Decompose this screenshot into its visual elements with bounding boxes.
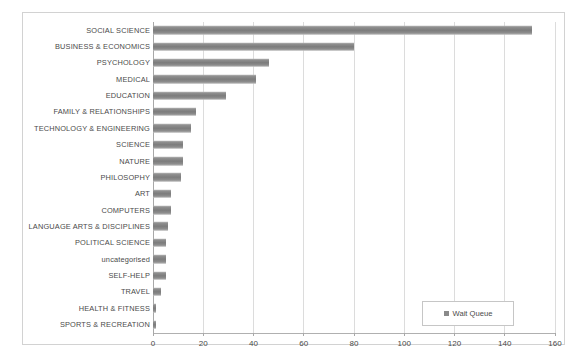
- x-tick-label: 140: [498, 339, 511, 348]
- bar-row: PHILOSOPHY: [23, 169, 564, 185]
- bar-row: POLITICAL SCIENCE: [23, 235, 564, 251]
- bar-track: [153, 87, 555, 103]
- category-label: POLITICAL SCIENCE: [23, 238, 150, 247]
- bar-track: [153, 153, 555, 169]
- bar-row: uncategorised: [23, 251, 564, 267]
- x-tick-label: 60: [299, 339, 308, 348]
- bar[interactable]: [153, 91, 226, 100]
- category-label: PSYCHOLOGY: [23, 58, 150, 67]
- category-label: COMPUTERS: [23, 206, 150, 215]
- bar[interactable]: [153, 26, 532, 35]
- bar-row: NATURE: [23, 153, 564, 169]
- x-tick-label: 120: [448, 339, 461, 348]
- category-label: LANGUAGE ARTS & DISCIPLINES: [23, 222, 150, 231]
- x-tick-label: 100: [398, 339, 411, 348]
- x-tick-label: 160: [548, 339, 561, 348]
- bar-row: SCIENCE: [23, 137, 564, 153]
- bar-row: MEDICAL: [23, 71, 564, 87]
- legend-swatch-icon: [444, 311, 449, 316]
- bar-track: [153, 169, 555, 185]
- bar-row: SOCIAL SCIENCE: [23, 22, 564, 38]
- category-label: SPORTS & RECREATION: [23, 320, 150, 329]
- bar-track: [153, 251, 555, 267]
- bar-track: [153, 284, 555, 300]
- bar[interactable]: [153, 75, 256, 84]
- bar[interactable]: [153, 222, 168, 231]
- bar[interactable]: [153, 239, 166, 248]
- x-axis-line: [153, 333, 555, 334]
- bar[interactable]: [153, 108, 196, 117]
- category-label: ART: [23, 189, 150, 198]
- x-tick-label: 80: [350, 339, 359, 348]
- bar-track: [153, 202, 555, 218]
- bar[interactable]: [153, 140, 183, 149]
- bar-track: [153, 104, 555, 120]
- category-label: SCIENCE: [23, 140, 150, 149]
- bar-track: [153, 22, 555, 38]
- x-tick-label: 40: [249, 339, 258, 348]
- category-label: SOCIAL SCIENCE: [23, 26, 150, 35]
- bar-row: EDUCATION: [23, 87, 564, 103]
- chart-frame: SOCIAL SCIENCEBUSINESS & ECONOMICSPSYCHO…: [22, 12, 565, 345]
- bar-row: FAMILY & RELATIONSHIPS: [23, 104, 564, 120]
- bar-track: [153, 137, 555, 153]
- bar-row: TRAVEL: [23, 284, 564, 300]
- bar[interactable]: [153, 59, 269, 68]
- category-label: BUSINESS & ECONOMICS: [23, 42, 150, 51]
- bar-track: [153, 55, 555, 71]
- bar-row: BUSINESS & ECONOMICS: [23, 38, 564, 54]
- plot-area: SOCIAL SCIENCEBUSINESS & ECONOMICSPSYCHO…: [23, 22, 564, 333]
- category-label: MEDICAL: [23, 75, 150, 84]
- category-label: HEALTH & FITNESS: [23, 304, 150, 313]
- bar-track: [153, 71, 555, 87]
- bar-row: LANGUAGE ARTS & DISCIPLINES: [23, 218, 564, 234]
- bar[interactable]: [153, 304, 156, 313]
- category-label: TECHNOLOGY & ENGINEERING: [23, 124, 150, 133]
- bar[interactable]: [153, 255, 166, 264]
- bar[interactable]: [153, 173, 181, 182]
- bar[interactable]: [153, 157, 183, 166]
- category-label: FAMILY & RELATIONSHIPS: [23, 107, 150, 116]
- bar[interactable]: [153, 288, 161, 297]
- bar[interactable]: [153, 271, 166, 280]
- bar-row: TECHNOLOGY & ENGINEERING: [23, 120, 564, 136]
- bar-row: PSYCHOLOGY: [23, 55, 564, 71]
- bar[interactable]: [153, 206, 171, 215]
- bar-track: [153, 267, 555, 283]
- category-label: EDUCATION: [23, 91, 150, 100]
- bar-track: [153, 120, 555, 136]
- bar-row: ART: [23, 186, 564, 202]
- category-label: SELF-HELP: [23, 271, 150, 280]
- category-label: TRAVEL: [23, 287, 150, 296]
- bar[interactable]: [153, 42, 354, 51]
- bar[interactable]: [153, 124, 191, 133]
- x-tick-label: 0: [151, 339, 155, 348]
- bar[interactable]: [153, 190, 171, 199]
- category-label: NATURE: [23, 157, 150, 166]
- chart-legend: Wait Queue: [422, 301, 514, 326]
- bar-track: [153, 38, 555, 54]
- bar-row: SELF-HELP: [23, 267, 564, 283]
- category-label: uncategorised: [23, 255, 150, 264]
- bar-track: [153, 218, 555, 234]
- legend-label: Wait Queue: [453, 309, 493, 318]
- bar-row: COMPUTERS: [23, 202, 564, 218]
- x-tick-label: 20: [199, 339, 208, 348]
- bar[interactable]: [153, 320, 156, 329]
- bar-track: [153, 235, 555, 251]
- category-label: PHILOSOPHY: [23, 173, 150, 182]
- bar-track: [153, 186, 555, 202]
